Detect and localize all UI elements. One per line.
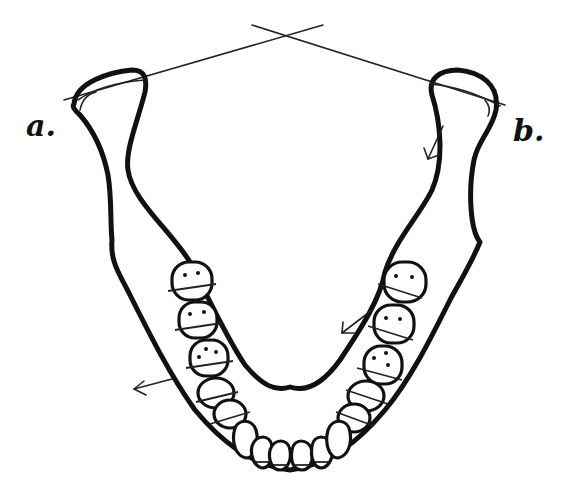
left-molar-3	[186, 340, 233, 376]
right-molar-2	[368, 305, 414, 343]
condylar-axis-line-right	[252, 25, 505, 105]
left-molar-1	[168, 262, 216, 300]
label-b: b.	[513, 113, 544, 148]
condylar-axis-line-left	[64, 25, 323, 100]
right-central-incisor	[291, 441, 312, 470]
right-canine	[327, 421, 351, 458]
left-central-incisor	[269, 441, 290, 470]
left-molar-2	[175, 302, 222, 338]
mandible-diagram: a. b.	[0, 0, 561, 495]
right-molar-3	[357, 346, 402, 384]
right-condyle-detail-2	[485, 100, 489, 116]
label-a: a.	[26, 108, 56, 143]
mandible-outer-outline	[73, 70, 496, 470]
mandible-drawing	[0, 0, 561, 495]
arrow-icon-left-body	[134, 379, 172, 395]
